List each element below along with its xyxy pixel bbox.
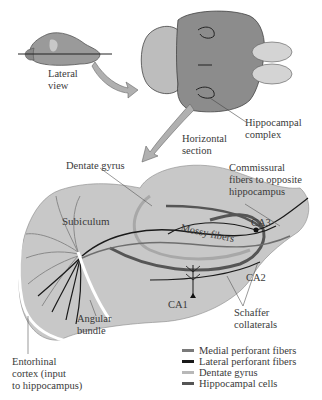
label-schaffer-collaterals: Schaffer collaterals: [234, 307, 277, 331]
label-horizontal-section: Horizontal section: [182, 133, 227, 157]
label-commissural-fibers: Commissural fibers to opposite hippocamp…: [229, 162, 302, 198]
hippocampus-diagram: Lateral view Horizontal section Hippocam…: [0, 0, 322, 400]
label-ca3: CA3: [251, 217, 271, 229]
legend-label: Hippocampal cells: [199, 378, 277, 389]
label-entorhinal-cortex: Entorhinal cortex (input to hippocampus): [12, 356, 82, 392]
legend-label: Dentate gyrus: [199, 367, 258, 378]
legend-label: Medial perforant fibers: [199, 345, 296, 356]
legend-item: Medial perforant fibers: [182, 345, 296, 356]
legend-swatch-lateral-perforant: [182, 360, 194, 363]
legend-swatch-medial-perforant: [182, 349, 194, 352]
arrow-icon: [92, 62, 138, 98]
label-angular-bundle: Angular bundle: [77, 313, 111, 337]
legend-label: Lateral perforant fibers: [199, 356, 296, 367]
lateral-brain-icon: [18, 33, 112, 66]
label-subiculum: Subiculum: [62, 215, 110, 227]
label-ca2: CA2: [246, 272, 266, 284]
legend-swatch-hippocampal-cells: [182, 382, 194, 385]
legend: Medial perforant fibers Lateral perforan…: [182, 345, 296, 389]
legend-swatch-dentate-gyrus: [182, 371, 194, 374]
label-dentate-gyrus: Dentate gyrus: [66, 160, 125, 172]
label-lateral-view: Lateral view: [48, 68, 78, 92]
label-ca1: CA1: [168, 299, 188, 311]
label-hippocampal-complex: Hippocampal complex: [245, 117, 302, 141]
legend-item: Hippocampal cells: [182, 378, 296, 389]
illustration: [0, 0, 322, 400]
horizontal-brain-icon: [141, 11, 292, 112]
legend-item: Lateral perforant fibers: [182, 356, 296, 367]
legend-item: Dentate gyrus: [182, 367, 296, 378]
